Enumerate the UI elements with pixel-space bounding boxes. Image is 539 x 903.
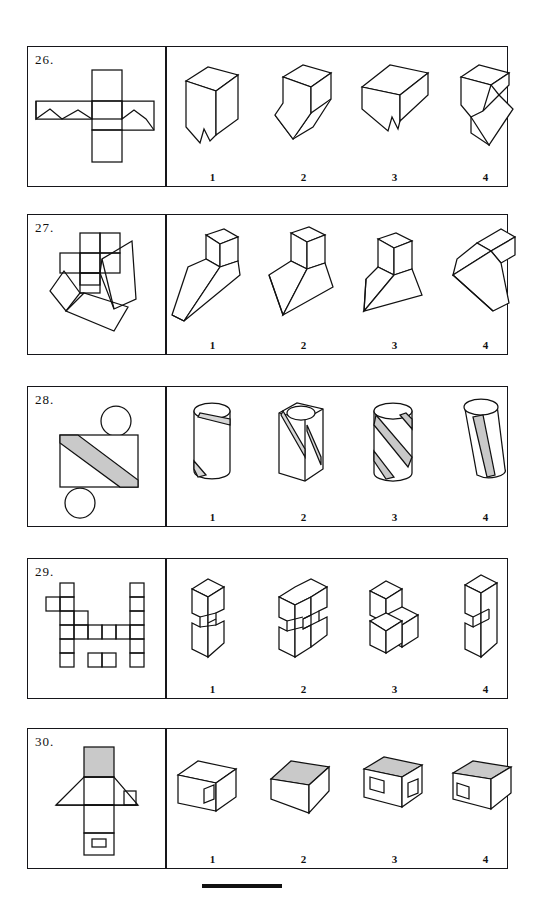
option-26-2[interactable]: 2 — [261, 51, 346, 188]
option-label: 4 — [443, 683, 528, 695]
question-panel-28: 28. 1 — [27, 386, 508, 527]
option-26-3[interactable]: 3 — [352, 51, 437, 188]
question-panel-30: 30. — [27, 728, 508, 869]
option-28-4[interactable]: 4 — [443, 391, 528, 528]
worksheet-page: 26. — [0, 0, 539, 903]
option-label: 3 — [352, 511, 437, 523]
option-29-4[interactable]: 4 — [443, 563, 528, 700]
question-panel-29: 29. — [27, 558, 508, 699]
option-27-4[interactable]: 4 — [443, 219, 528, 356]
question-stem-figure-27 — [28, 215, 165, 354]
option-30-4[interactable]: 4 — [443, 733, 528, 870]
options-row-30: 1 2 — [166, 729, 507, 868]
option-29-2[interactable]: 2 — [261, 563, 346, 700]
option-label: 2 — [261, 683, 346, 695]
question-panel-26: 26. — [27, 46, 508, 187]
option-label: 4 — [443, 853, 528, 865]
option-label: 2 — [261, 339, 346, 351]
option-30-2[interactable]: 2 — [261, 733, 346, 870]
option-label: 4 — [443, 171, 528, 183]
question-stem-figure-30 — [28, 729, 165, 868]
option-28-1[interactable]: 1 — [170, 391, 255, 528]
option-label: 1 — [170, 171, 255, 183]
option-label: 2 — [261, 853, 346, 865]
option-label: 3 — [352, 339, 437, 351]
option-label: 1 — [170, 511, 255, 523]
option-27-1[interactable]: 1 — [170, 219, 255, 356]
option-label: 2 — [261, 171, 346, 183]
question-stem-figure-26 — [28, 47, 165, 186]
options-row-27: 1 2 — [166, 215, 507, 354]
question-panel-27: 27. — [27, 214, 508, 355]
option-label: 1 — [170, 683, 255, 695]
option-27-2[interactable]: 2 — [261, 219, 346, 356]
option-30-1[interactable]: 1 — [170, 733, 255, 870]
question-stem-figure-28 — [28, 387, 165, 526]
option-label: 3 — [352, 171, 437, 183]
option-label: 4 — [443, 339, 528, 351]
option-29-1[interactable]: 1 — [170, 563, 255, 700]
options-row-26: 1 2 — [166, 47, 507, 186]
options-row-29: 1 2 — [166, 559, 507, 698]
option-29-3[interactable]: 3 — [352, 563, 437, 700]
option-label: 2 — [261, 511, 346, 523]
option-30-3[interactable]: 3 — [352, 733, 437, 870]
option-label: 3 — [352, 853, 437, 865]
options-row-28: 1 2 — [166, 387, 507, 526]
option-label: 4 — [443, 511, 528, 523]
option-26-4[interactable]: 4 — [443, 51, 528, 188]
bottom-rule — [202, 884, 282, 888]
option-27-3[interactable]: 3 — [352, 219, 437, 356]
option-label: 1 — [170, 853, 255, 865]
option-28-2[interactable]: 2 — [261, 391, 346, 528]
option-26-1[interactable]: 1 — [170, 51, 255, 188]
option-label: 3 — [352, 683, 437, 695]
option-28-3[interactable]: 3 — [352, 391, 437, 528]
question-stem-figure-29 — [28, 559, 165, 698]
option-label: 1 — [170, 339, 255, 351]
